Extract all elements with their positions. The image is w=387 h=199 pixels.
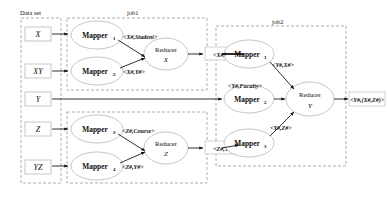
- job2-group-label: job2: [271, 18, 284, 25]
- job1-mapper1-label: Mapper: [82, 31, 108, 40]
- edge-label-mapper4-reducer-z: <Z#,Y#>: [122, 164, 144, 170]
- edge-label-mapper2-reducer-x: <X#,Y#>: [123, 69, 146, 75]
- input-label-z: Z: [36, 125, 41, 134]
- input-label-xy: XY: [32, 67, 44, 76]
- job2-mapper3-label: Mapper: [234, 139, 260, 148]
- diagram-canvas: Data set job1 job2 X XY Y Z YZ Mapper 1 …: [0, 0, 387, 199]
- job1-reducer-x-node[interactable]: [144, 38, 188, 70]
- job2-reducer-y-label: Reducer: [299, 91, 322, 98]
- job2-mapper1-label: Mapper: [234, 50, 260, 59]
- job2-final-output-label: <Y#,(X#,Z#)>: [350, 97, 385, 104]
- input-label-yz: YZ: [34, 163, 43, 172]
- edge-mapper2-to-reducer-x: [120, 58, 145, 68]
- job1-reducer-z-node[interactable]: [144, 132, 188, 164]
- edge-label-job2-mapper2-reducer: <Y#,Faculty>: [228, 83, 263, 89]
- mapreduce-pipeline-diagram: Data set job1 job2 X XY Y Z YZ Mapper 1 …: [0, 0, 387, 199]
- job1-mapper2-label: Mapper: [82, 67, 108, 76]
- dataset-group-label: Data set: [20, 9, 41, 16]
- edge-job2-mapper3-to-reducer: [270, 112, 294, 136]
- edge-label-job2-mapper1-reducer: <Y#,X#>: [272, 62, 295, 68]
- edge-label-mapper3-reducer-z: <Z#,Course>: [122, 128, 155, 134]
- job1-reducer-x-label: Reducer: [155, 46, 178, 53]
- job1-reducer-z-key: Z: [164, 150, 168, 158]
- job1-group-label: job1: [126, 9, 139, 16]
- edge-mapper1-to-reducer-x: [118, 40, 145, 57]
- job1-mapper3-label: Mapper: [82, 125, 108, 134]
- job2-reducer-y-node[interactable]: [286, 82, 334, 116]
- job2-mapper2-label: Mapper: [234, 95, 260, 104]
- job1-reducer-z-label: Reducer: [155, 140, 178, 147]
- edge-label-job2-mapper3-reducer: <Y#,Z#>: [270, 125, 292, 131]
- job1-reducer-x-key: X: [163, 56, 169, 64]
- job1-mapper4-label: Mapper: [82, 162, 108, 171]
- edge-mapper3-to-reducer-z: [118, 134, 145, 151]
- edge-mapper4-to-reducer-z: [120, 152, 145, 163]
- edge-label-mapper1-reducer-x: <X#,Student>: [123, 34, 158, 40]
